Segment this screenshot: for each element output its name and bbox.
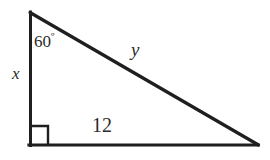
right-angle-marker: [30, 126, 48, 145]
hypotenuse-line: [30, 13, 259, 146]
hypotenuse-label-y: y: [131, 40, 139, 59]
right-triangle-drawing: [0, 0, 270, 160]
degree-symbol-icon: º: [51, 30, 54, 42]
horizontal-leg-label-12: 12: [92, 115, 112, 135]
angle-label-60-degrees: 60º: [34, 31, 54, 50]
vertical-leg-label-x: x: [12, 65, 20, 82]
angle-value-text: 60: [34, 32, 51, 51]
geometry-figure: 60º x y 12: [0, 0, 270, 160]
